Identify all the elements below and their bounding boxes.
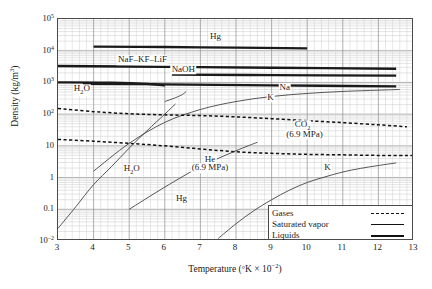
curve-k-saturated-vapor-upper [94, 89, 400, 171]
annotation-naf-kf-lif-1: NaF–KF–LiF [117, 56, 168, 65]
x-tick-4: 4 [90, 242, 95, 252]
x-tick-11: 11 [337, 242, 346, 252]
x-tick-6: 6 [162, 242, 167, 252]
y-tick-5: 1 [50, 172, 54, 182]
x-tick-7: 7 [197, 242, 202, 252]
x-tick-9: 9 [268, 242, 273, 252]
curve-naf-kf-lif-liquid [58, 66, 396, 69]
y-tick-6: 0.1 [43, 203, 54, 213]
curve-na-liquid [83, 84, 396, 87]
annotation--6-9-mpa--7: (6.9 MPa) [285, 130, 324, 139]
curve-naoh-liquid [172, 75, 396, 76]
x-tick-3: 3 [55, 242, 60, 252]
annotation-na-4: Na [279, 84, 292, 93]
y-tick-3: 102 [43, 108, 54, 119]
annotation-h-o-3: H2O [73, 85, 91, 96]
x-tick-12: 12 [373, 242, 382, 252]
legend-item-saturated-vapor: Saturated vapor [272, 218, 412, 229]
legend-item-liquids: Liquids [272, 229, 412, 240]
curve-h2o-saturated-vapor [58, 104, 175, 228]
y-tick-7: 10−2 [39, 235, 54, 246]
annotation-hg-11: Hg [175, 195, 188, 204]
x-tick-13: 13 [409, 242, 418, 252]
legend-swatch-gases [367, 207, 412, 218]
y-tick-1: 104 [43, 44, 54, 55]
legend-label-saturated-vapor: Saturated vapor [272, 219, 367, 229]
legend: Gases Saturated vapor Liquids [268, 205, 413, 240]
y-tick-2: 103 [43, 76, 54, 87]
curve-h2o-saturated-vapor-upper [165, 91, 186, 101]
annotation-k-5: K [266, 93, 275, 102]
annotation-k-12: K [323, 163, 332, 172]
annotation-h-o-10: H2O [123, 164, 141, 175]
x-tick-5: 5 [126, 242, 131, 252]
x-axis-title: Temperature (°K × 10−2) [57, 262, 413, 274]
legend-label-gases: Gases [272, 208, 367, 218]
y-tick-4: 10 [46, 140, 55, 150]
legend-label-liquids: Liquids [272, 230, 367, 240]
curve-co2-gas-6-9-mpa- [58, 109, 407, 127]
annotation-hg-0: Hg [209, 32, 222, 41]
annotation--6-9-mpa--9: (6.9 MPa) [191, 163, 230, 172]
legend-swatch-liquids [367, 229, 412, 240]
x-tick-8: 8 [233, 242, 238, 252]
chart-figure: Density (kg/m3) 1051041031021010.110−2 H… [0, 0, 432, 289]
y-axis-tick-labels: 1051041031021010.110−2 [0, 18, 54, 240]
x-axis-tick-labels: 345678910111213 [57, 242, 413, 256]
curve-he-gas-6-9-mpa- [58, 139, 412, 155]
legend-swatch-saturated-vapor [367, 218, 412, 229]
x-tick-10: 10 [302, 242, 311, 252]
y-tick-0: 105 [43, 13, 54, 24]
annotation-naoh-2: NaOH [171, 65, 197, 74]
curve-hg-liquid [94, 47, 308, 49]
legend-item-gases: Gases [272, 207, 412, 218]
